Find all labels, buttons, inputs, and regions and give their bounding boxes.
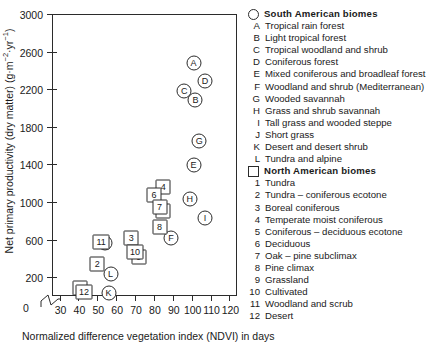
- x-tick-label: 80: [149, 305, 161, 316]
- x-tick: 110: [211, 296, 212, 301]
- y-tick: 3000: [47, 14, 52, 15]
- legend-item-key: C: [248, 44, 265, 56]
- legend-item-key: K: [248, 141, 265, 153]
- x-tick-label: 60: [111, 305, 123, 316]
- legend-item-key: 10: [248, 286, 265, 298]
- y-axis-label: Net primary productivity (dry matter) (g…: [0, 0, 14, 282]
- legend-item-key: L: [248, 153, 265, 165]
- y-tick-inner: [52, 164, 57, 165]
- y-tick-inner: [52, 202, 57, 203]
- legend-item-label: Boreal coniferous: [265, 202, 436, 214]
- legend-header-south: South American biomes: [248, 8, 436, 20]
- legend-item-key: E: [248, 68, 265, 80]
- legend-item-key: 11: [248, 298, 265, 310]
- legend-item-key: 12: [248, 310, 265, 322]
- axis-break-icon: [40, 292, 62, 308]
- data-point-K: K: [101, 286, 116, 301]
- y-tick-label: 2200: [20, 85, 43, 96]
- x-tick: 50: [97, 296, 98, 301]
- scatter-plot-figure: 200600100014001800220026003000 304050607…: [0, 0, 439, 352]
- legend-item: BLight tropical forest: [248, 32, 436, 44]
- legend-item: KDesert and desert shrub: [248, 141, 436, 153]
- legend-item-key: 1: [248, 177, 265, 189]
- y-tick-inner: [52, 52, 57, 53]
- legend-item: 2Tundra – coniferous ecotone: [248, 189, 436, 201]
- y-tick-label: 1000: [20, 198, 43, 209]
- legend-item-key: I: [248, 117, 265, 129]
- legend-item-key: H: [248, 105, 265, 117]
- y-tick-inner: [52, 89, 57, 90]
- x-tick-label: 100: [184, 305, 202, 316]
- legend-item-key: 9: [248, 274, 265, 286]
- y-tick-label: 1400: [20, 160, 43, 171]
- origin-tick-label: 0: [23, 303, 29, 314]
- y-tick-inner: [52, 127, 57, 128]
- x-tick: 100: [192, 296, 193, 301]
- legend-item-key: 4: [248, 214, 265, 226]
- legend-item: 8Pine climax: [248, 262, 436, 274]
- legend-item: 11Woodland and scrub: [248, 298, 436, 310]
- legend-header-north-label: North American biomes: [264, 165, 376, 177]
- x-tick: 90: [173, 296, 174, 301]
- y-tick-label: 200: [25, 273, 43, 284]
- legend-item: 12Desert: [248, 310, 436, 322]
- legend-item: 1Tundra: [248, 177, 436, 189]
- legend-header-south-label: South American biomes: [264, 8, 378, 20]
- legend-item: 10Cultivated: [248, 286, 436, 298]
- legend-item-key: G: [248, 93, 265, 105]
- data-point-8: 8: [152, 220, 167, 235]
- legend-item-label: Wooded savannah: [265, 93, 436, 105]
- legend-item-label: Coniferous – deciduous ecotone: [265, 226, 436, 238]
- legend-item-label: Tropical woodland and shrub: [265, 44, 436, 56]
- legend-item-label: Coniferous forest: [265, 56, 436, 68]
- y-tick-label: 3000: [20, 10, 43, 21]
- legend-item-label: Woodland and scrub: [265, 298, 436, 310]
- legend-item: 5Coniferous – deciduous ecotone: [248, 226, 436, 238]
- legend: South American biomes ATropical rain for…: [248, 8, 436, 322]
- data-point-7: 7: [152, 199, 167, 214]
- legend-item: GWooded savannah: [248, 93, 436, 105]
- legend-item: 6Deciduous: [248, 238, 436, 250]
- y-tick-inner: [52, 277, 57, 278]
- legend-item-label: Grass and shrub savannah: [265, 105, 436, 117]
- legend-item-label: Deciduous: [265, 238, 436, 250]
- legend-header-north: North American biomes: [248, 165, 436, 177]
- y-tick-label: 2600: [20, 47, 43, 58]
- legend-item-label: Tropical rain forest: [265, 20, 436, 32]
- legend-item-label: Mixed coniferous and broadleaf forest: [265, 68, 436, 80]
- x-tick-label: 90: [168, 305, 180, 316]
- legend-item-key: 8: [248, 262, 265, 274]
- legend-item-label: Tundra: [265, 177, 436, 189]
- legend-item-key: D: [248, 56, 265, 68]
- legend-item: 7Oak – pine subclimax: [248, 250, 436, 262]
- legend-item: LTundra and alpine: [248, 153, 436, 165]
- legend-item: ATropical rain forest: [248, 20, 436, 32]
- x-tick-label: 50: [92, 305, 104, 316]
- x-tick-label: 110: [203, 305, 220, 316]
- data-point-A: A: [186, 55, 201, 70]
- legend-item-label: Pine climax: [265, 262, 436, 274]
- legend-item-label: Tundra – coniferous ecotone: [265, 189, 436, 201]
- data-point-G: G: [192, 133, 207, 148]
- data-point-2: 2: [90, 257, 105, 272]
- x-axis-label: Normalized difference vegetation index (…: [22, 331, 262, 342]
- plot-area: 200600100014001800220026003000 304050607…: [52, 14, 237, 296]
- legend-items-south: ATropical rain forestBLight tropical for…: [248, 20, 436, 165]
- legend-item-key: 5: [248, 226, 265, 238]
- legend-item-label: Tundra and alpine: [265, 153, 436, 165]
- data-point-D: D: [197, 73, 212, 88]
- data-point-12: 12: [76, 285, 93, 300]
- data-point-11: 11: [93, 235, 110, 250]
- legend-item: 3Boreal coniferous: [248, 202, 436, 214]
- legend-item-label: Tall grass and wooded steppe: [265, 117, 436, 129]
- x-tick: 60: [116, 296, 117, 301]
- x-tick: 70: [135, 296, 136, 301]
- legend-item: 9Grassland: [248, 274, 436, 286]
- legend-item: ITall grass and wooded steppe: [248, 117, 436, 129]
- legend-item-label: Desert and desert shrub: [265, 141, 436, 153]
- legend-item-label: Cultivated: [265, 286, 436, 298]
- legend-item-key: 3: [248, 202, 265, 214]
- x-tick: 80: [154, 296, 155, 301]
- legend-item-label: Grassland: [265, 274, 436, 286]
- legend-item: JShort grass: [248, 129, 436, 141]
